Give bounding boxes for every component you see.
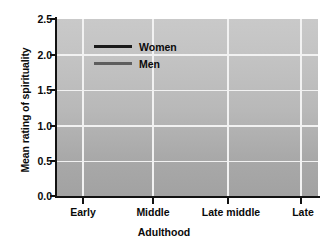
x-tick-mark-early [82,198,84,204]
y-tick-label-2-0: 2.0 [26,50,52,61]
gridline-v-late [300,19,302,196]
x-tick-label-early: Early [70,206,96,218]
x-tick-mark-middle [152,198,154,204]
legend-swatch-men [94,62,132,66]
x-axis-line [55,196,320,198]
chart-legend: Women Men [94,38,204,72]
x-axis-title: Adulthood [0,226,328,238]
x-tick-label-middle: Middle [136,206,169,218]
y-axis-tick-labels: 2.5 2.0 1.5 1.0 0.5 0.0 [22,0,52,244]
legend-entry-women: Women [94,38,204,55]
y-tick-label-0-0: 0.0 [26,191,52,202]
gridline-h-1-0 [57,125,318,127]
plot-area: Women Men [57,19,318,196]
y-tick-label-2-5: 2.5 [26,14,52,25]
y-tick-label-1-5: 1.5 [26,85,52,96]
legend-label-women: Women [139,41,177,53]
y-tick-label-0-5: 0.5 [26,156,52,167]
y-tick-label-1-0: 1.0 [26,121,52,132]
y-axis-line [55,17,57,198]
legend-label-men: Men [139,58,160,70]
spirituality-line-chart: Mean rating of spirituality 2.5 2.0 1.5 … [0,0,328,244]
x-tick-mark-late [300,198,302,204]
x-tick-label-late: Late [292,206,314,218]
x-tick-mark-late-middle [227,198,229,204]
gridline-v-early [82,19,84,196]
gridline-h-0-5 [57,161,318,163]
x-tick-label-late-middle: Late middle [202,206,260,218]
legend-entry-men: Men [94,55,204,72]
gridline-h-1-5 [57,90,318,92]
legend-swatch-women [94,45,132,49]
gridline-v-late-middle [227,19,229,196]
